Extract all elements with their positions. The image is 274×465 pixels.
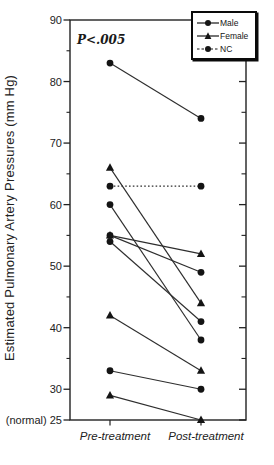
marker-circle-male bbox=[107, 367, 114, 374]
marker-circle-nc bbox=[107, 183, 114, 190]
marker-circle-male bbox=[198, 337, 205, 344]
y-tick-label: 60 bbox=[50, 199, 62, 211]
legend-row-female: Female bbox=[196, 29, 253, 42]
plot-frame bbox=[70, 20, 246, 420]
legend-row-male: Male bbox=[196, 16, 253, 29]
series-line-female bbox=[110, 168, 201, 303]
marker-circle-male bbox=[107, 201, 114, 208]
nc-line-marker-icon bbox=[196, 44, 220, 54]
male-line-marker-icon bbox=[196, 18, 220, 28]
x-label-post-treatment: Post-treatment bbox=[146, 430, 266, 442]
marker-circle-male bbox=[107, 238, 114, 245]
y-tick-label: 30 bbox=[50, 383, 62, 395]
p-value-annotation: P<.005 bbox=[77, 33, 125, 47]
series-line-female bbox=[110, 395, 201, 420]
marker-circle-male bbox=[198, 386, 205, 393]
series-line-female bbox=[110, 315, 201, 370]
marker-triangle-female bbox=[106, 311, 114, 319]
marker-circle-male bbox=[198, 318, 205, 325]
y-tick-label: 80 bbox=[50, 76, 62, 88]
legend-label-female: Female bbox=[220, 31, 248, 41]
chart-plot: 90807060504030(normal) 25 bbox=[0, 0, 274, 465]
marker-triangle-female bbox=[197, 366, 205, 374]
series-line-male bbox=[110, 371, 201, 389]
legend-row-nc: NC bbox=[196, 42, 253, 55]
marker-circle-male bbox=[198, 115, 205, 122]
series-line-male bbox=[110, 63, 201, 118]
marker-circle-male bbox=[107, 60, 114, 67]
marker-circle-male bbox=[198, 269, 205, 276]
legend: Male Female NC bbox=[191, 11, 257, 60]
marker-circle-nc bbox=[198, 183, 205, 190]
y-tick-label: 90 bbox=[50, 14, 62, 26]
y-axis-title: Estimated Pulmonary Artery Pressures (mm… bbox=[2, 18, 18, 418]
y-tick-label: 40 bbox=[50, 322, 62, 334]
marker-triangle-female bbox=[106, 391, 114, 399]
marker-triangle-female bbox=[106, 163, 114, 171]
series-line-male bbox=[110, 205, 201, 340]
figure-canvas: 90807060504030(normal) 25 Estimated Pulm… bbox=[0, 0, 274, 465]
y-tick-label: 70 bbox=[50, 137, 62, 149]
series-line-female bbox=[110, 235, 201, 253]
female-line-marker-icon bbox=[196, 31, 220, 41]
y-tick-label: 50 bbox=[50, 260, 62, 272]
legend-label-nc: NC bbox=[220, 44, 232, 54]
legend-label-male: Male bbox=[220, 18, 238, 28]
